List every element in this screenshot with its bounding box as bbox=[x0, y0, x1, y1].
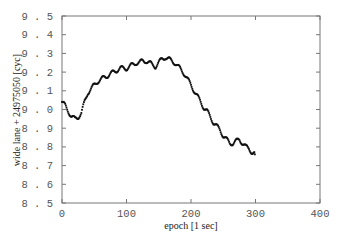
data-point bbox=[156, 65, 158, 67]
x-axis: 0100200300400 bbox=[59, 16, 330, 220]
data-point bbox=[208, 112, 210, 114]
data-point bbox=[66, 107, 68, 109]
y-tick-label: 9 . 4 bbox=[21, 29, 53, 41]
data-point bbox=[83, 101, 85, 103]
y-tick-label: 9 . 2 bbox=[21, 67, 53, 79]
data-point bbox=[67, 111, 69, 113]
data-point bbox=[180, 67, 182, 69]
data-point bbox=[208, 111, 210, 113]
data-point bbox=[200, 101, 202, 103]
data-point bbox=[209, 114, 211, 116]
data-point bbox=[80, 112, 82, 114]
data-point bbox=[180, 69, 182, 71]
wide-lane-scatter-chart: 8 . 58 . 68 . 78 . 88 . 99 . 09 . 19 . 2… bbox=[0, 0, 339, 239]
plot-frame bbox=[62, 16, 320, 203]
x-tick-label: 400 bbox=[311, 208, 330, 220]
data-point bbox=[254, 153, 256, 155]
data-point bbox=[198, 97, 200, 99]
data-point bbox=[211, 120, 213, 122]
data-point bbox=[65, 105, 67, 107]
data-point bbox=[248, 148, 250, 150]
data-point bbox=[218, 126, 220, 128]
x-tick-label: 100 bbox=[117, 208, 136, 220]
data-point bbox=[228, 139, 230, 141]
data-point bbox=[190, 84, 192, 86]
data-point bbox=[209, 116, 211, 118]
x-tick-label: 200 bbox=[182, 208, 201, 220]
data-point bbox=[82, 106, 84, 108]
data-point bbox=[218, 128, 220, 130]
y-tick-label: 9 . 3 bbox=[21, 48, 53, 60]
data-point bbox=[219, 129, 221, 131]
data-point bbox=[90, 88, 92, 90]
data-point bbox=[89, 91, 91, 93]
data-point bbox=[80, 114, 82, 116]
data-point bbox=[157, 62, 159, 64]
data-point bbox=[238, 139, 240, 141]
data-point bbox=[181, 71, 183, 73]
data-point bbox=[89, 89, 91, 91]
data-point bbox=[191, 88, 193, 90]
data-point bbox=[201, 105, 203, 107]
y-tick-label: 9 . 1 bbox=[21, 85, 53, 97]
y-tick-label: 8 . 6 bbox=[21, 179, 53, 191]
x-tick-label: 0 bbox=[59, 208, 65, 220]
y-tick-label: 8 . 5 bbox=[21, 198, 53, 210]
data-point bbox=[228, 141, 230, 143]
data-point bbox=[81, 109, 83, 111]
data-point bbox=[79, 115, 81, 117]
y-axis-title: wide lane + 24975050 [cyc] bbox=[11, 54, 22, 166]
data-point bbox=[200, 103, 202, 105]
data-point bbox=[220, 131, 222, 133]
data-point bbox=[189, 82, 191, 84]
data-point bbox=[82, 103, 84, 105]
y-tick-label: 8 . 8 bbox=[21, 141, 53, 153]
y-tick-label: 9 . 0 bbox=[21, 104, 53, 116]
data-point bbox=[191, 86, 193, 88]
x-axis-title: epoch [1 sec] bbox=[164, 220, 217, 231]
data-point bbox=[189, 80, 191, 82]
y-tick-label: 8 . 7 bbox=[21, 160, 53, 172]
data-point bbox=[64, 103, 66, 105]
data-point bbox=[157, 64, 159, 66]
data-point bbox=[66, 109, 68, 111]
data-point bbox=[210, 118, 212, 120]
x-tick-label: 300 bbox=[246, 208, 265, 220]
data-point bbox=[253, 151, 255, 153]
data-points bbox=[61, 56, 256, 155]
y-tick-label: 9 . 5 bbox=[21, 11, 53, 23]
y-tick-label: 8 . 9 bbox=[21, 123, 53, 135]
data-point bbox=[199, 99, 201, 101]
